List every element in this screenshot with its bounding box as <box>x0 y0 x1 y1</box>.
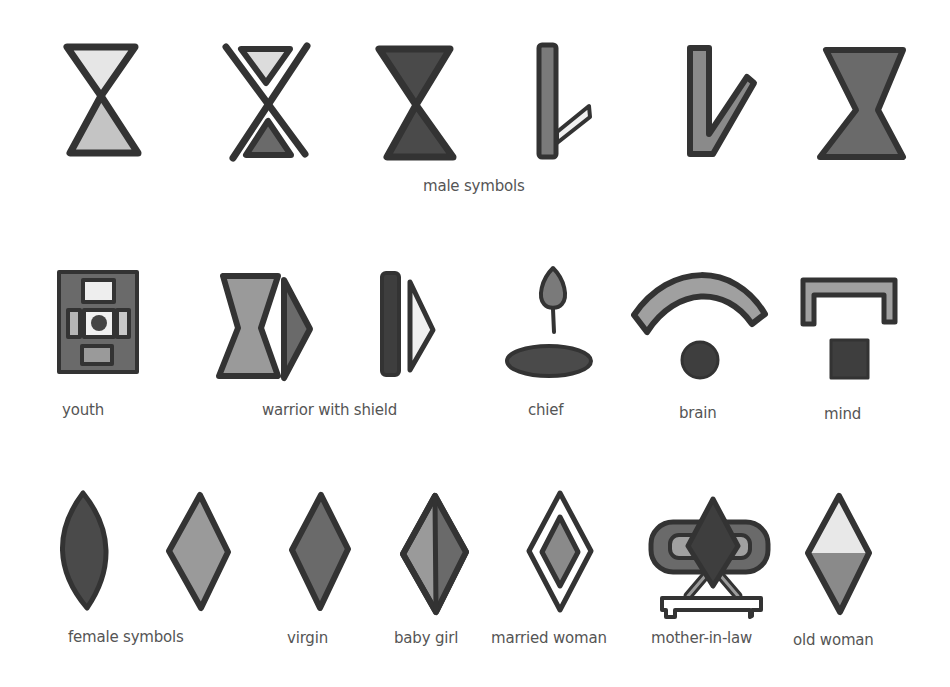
chief-symbol-icon <box>507 268 591 376</box>
warrior-hourglass-with-shield-icon <box>219 276 310 378</box>
male-symbol-bowtie-icon <box>820 50 903 157</box>
label-married-woman: married woman <box>491 629 607 647</box>
virgin-symbol-icon <box>292 495 348 608</box>
label-youth: youth <box>62 401 104 419</box>
label-mind: mind <box>824 405 861 423</box>
label-female-symbols: female symbols <box>68 628 184 646</box>
male-symbol-crossed-hourglass-icon <box>226 46 307 158</box>
label-old-woman: old woman <box>793 631 874 649</box>
label-baby-girl: baby girl <box>394 629 458 647</box>
male-symbol-check-staff-icon <box>690 48 754 154</box>
label-warrior-with-shield: warrior with shield <box>262 401 397 419</box>
youth-symbol-icon <box>59 272 137 372</box>
label-virgin: virgin <box>287 629 328 647</box>
label-chief: chief <box>528 401 563 419</box>
married-woman-symbol-icon <box>529 493 591 610</box>
male-symbol-hourglass-dark-icon <box>379 49 453 157</box>
brain-symbol-icon <box>634 275 765 378</box>
old-woman-symbol-icon <box>800 490 880 623</box>
mother-in-law-symbol-icon <box>651 499 768 617</box>
female-symbol-diamond-light-icon <box>169 495 228 608</box>
baby-girl-symbol-icon <box>403 496 466 612</box>
label-mother-in-law: mother-in-law <box>651 629 752 647</box>
female-symbol-lens-icon <box>62 493 106 608</box>
symbol-chart <box>0 0 950 687</box>
male-symbol-staff-with-blade-icon <box>539 45 590 157</box>
label-brain: brain <box>679 404 717 422</box>
mind-symbol-icon <box>803 280 895 378</box>
warrior-staff-with-shield-icon <box>382 273 433 375</box>
male-symbol-hourglass-light-icon <box>67 47 138 153</box>
label-male-symbols: male symbols <box>423 177 525 195</box>
